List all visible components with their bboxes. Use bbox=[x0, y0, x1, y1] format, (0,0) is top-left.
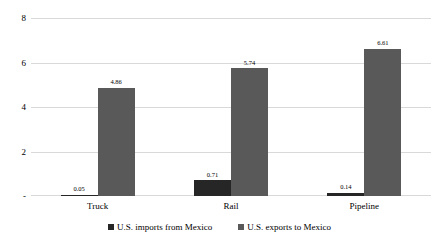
legend-swatch-icon-exports bbox=[238, 224, 244, 230]
bar-label-exports-rail: 5.74 bbox=[244, 60, 255, 67]
plot-area: 0.05 4.86 0.71 5.74 0.14 bbox=[31, 18, 431, 196]
bar-group-rail: 0.71 5.74 bbox=[164, 18, 297, 196]
plot-wrapper: 8 6 4 2 - 0.05 4.86 bbox=[0, 0, 439, 205]
legend-label-imports: U.S. imports from Mexico bbox=[117, 223, 212, 232]
y-tick-label-0: - bbox=[23, 192, 26, 201]
bar-label-imports-rail: 0.71 bbox=[207, 172, 218, 179]
y-tick-label-4: 4 bbox=[22, 103, 27, 112]
legend-swatch-icon-imports bbox=[108, 224, 114, 230]
category-label-pipeline: Pipeline bbox=[298, 198, 431, 214]
legend-label-exports: U.S. exports to Mexico bbox=[247, 223, 331, 232]
y-tick-label-2: 2 bbox=[22, 147, 27, 156]
x-axis-category-labels: Truck Rail Pipeline bbox=[31, 198, 431, 214]
bar-label-imports-pipeline: 0.14 bbox=[340, 184, 351, 191]
bar-label-imports-truck: 0.05 bbox=[73, 186, 84, 193]
category-label-truck: Truck bbox=[31, 198, 164, 214]
bar-exports-truck[interactable]: 4.86 bbox=[98, 88, 135, 196]
bar-group-pipeline: 0.14 6.61 bbox=[298, 18, 431, 196]
bar-exports-pipeline[interactable]: 6.61 bbox=[364, 49, 401, 196]
bar-imports-truck[interactable]: 0.05 bbox=[61, 195, 98, 196]
bar-group-truck: 0.05 4.86 bbox=[31, 18, 164, 196]
y-tick-label-6: 6 bbox=[22, 58, 27, 67]
y-axis-tick-labels: 8 6 4 2 - bbox=[0, 0, 30, 205]
bar-imports-rail[interactable]: 0.71 bbox=[194, 180, 231, 196]
bar-imports-pipeline[interactable]: 0.14 bbox=[327, 193, 364, 196]
bar-groups: 0.05 4.86 0.71 5.74 0.14 bbox=[31, 18, 431, 196]
legend-item-exports[interactable]: U.S. exports to Mexico bbox=[238, 223, 331, 232]
bar-exports-rail[interactable]: 5.74 bbox=[231, 68, 268, 196]
category-label-rail: Rail bbox=[164, 198, 297, 214]
y-tick-label-8: 8 bbox=[22, 14, 27, 23]
chart-legend: U.S. imports from Mexico U.S. exports to… bbox=[0, 219, 439, 235]
legend-item-imports[interactable]: U.S. imports from Mexico bbox=[108, 223, 212, 232]
bar-label-exports-truck: 4.86 bbox=[110, 79, 121, 86]
bar-chart: 8 6 4 2 - 0.05 4.86 bbox=[0, 0, 439, 243]
bar-label-exports-pipeline: 6.61 bbox=[377, 40, 388, 47]
